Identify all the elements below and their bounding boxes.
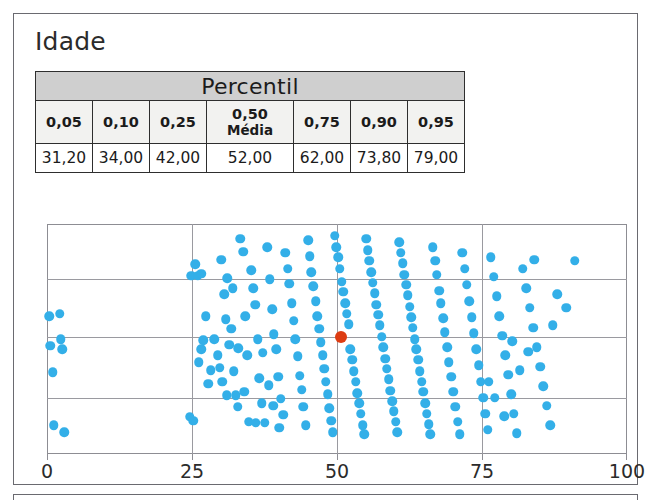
table-column-head-row: 0,05 0,10 0,25 0,50 Média (36, 101, 465, 144)
x-axis-labels: 0255075100 (47, 460, 627, 488)
table-header-span-row: Percentil (36, 72, 465, 101)
scatter-point (269, 330, 279, 340)
scatter-point (415, 366, 425, 376)
gridline-horizontal (47, 398, 627, 399)
scatter-point (503, 370, 513, 380)
scatter-point (424, 419, 434, 429)
scatter-point (321, 377, 331, 387)
scatter-point (528, 323, 538, 333)
scatter-point (257, 399, 267, 409)
scatter-point (222, 391, 232, 401)
scatter-point (406, 312, 416, 322)
scatter-point (342, 309, 352, 319)
scatter-point (293, 352, 303, 362)
scatter-point (318, 350, 328, 360)
scatter-point (227, 324, 237, 334)
scatter-point (264, 380, 274, 390)
scatter-point (453, 417, 463, 427)
scatter-point (46, 341, 56, 351)
scatter-point (428, 242, 438, 252)
scatter-point (434, 286, 444, 296)
col-head-label-4: 0,75 (304, 114, 340, 130)
scatter-point (360, 430, 370, 440)
scatter-point (382, 364, 392, 374)
scatter-point (289, 316, 299, 326)
scatter-point (228, 284, 238, 294)
col-head-1: 0,10 (93, 101, 150, 144)
scatter-point (542, 401, 552, 411)
scatter-point (229, 366, 239, 376)
scatter-point (506, 389, 516, 399)
scatter-point (344, 319, 354, 329)
value-cell-0: 31,20 (36, 144, 93, 173)
scatter-point (471, 345, 481, 355)
scatter-point (191, 260, 201, 270)
scatter-point (239, 387, 249, 397)
scatter-point (216, 255, 226, 265)
scatter-point (234, 343, 244, 353)
scatter-point (206, 365, 216, 375)
value-cell-3: 52,00 (207, 144, 294, 173)
scatter-point (403, 291, 413, 301)
scatter-point (509, 409, 519, 419)
scatter-point (325, 403, 335, 413)
x-axis-tick-label: 0 (41, 460, 53, 482)
scatter-point (57, 345, 67, 355)
scatter-point (432, 270, 442, 280)
scatter-point (462, 280, 472, 290)
scatter-point (251, 418, 261, 428)
scatter-point (489, 272, 499, 282)
scatter-point (194, 357, 204, 367)
scatter-point (512, 429, 522, 439)
scatter-point (398, 258, 408, 268)
scatter-point (561, 303, 571, 313)
scatter-point (405, 302, 415, 312)
scatter-point (328, 427, 338, 437)
scatter-point (354, 399, 364, 409)
median-marker (335, 331, 347, 343)
scatter-point (311, 296, 321, 306)
col-head-sub-3: Média (209, 123, 291, 138)
scatter-point (197, 345, 207, 355)
scatter-point (535, 362, 545, 372)
scatter-point (349, 366, 359, 376)
scatter-point (335, 264, 345, 274)
scatter-point (379, 342, 389, 352)
col-head-label-5: 0,90 (361, 114, 397, 130)
scatter-point (287, 299, 297, 309)
scatter-point (316, 338, 326, 348)
scatter-point (238, 247, 248, 257)
scatter-point (481, 409, 491, 419)
scatter-point (393, 427, 403, 437)
scatter-point (467, 312, 477, 322)
value-cell-5: 73,80 (351, 144, 408, 173)
scatter-point (500, 350, 510, 360)
scatter-point (347, 355, 357, 365)
scatter-point (442, 342, 452, 352)
scatter-point (356, 409, 366, 419)
scatter-point (340, 299, 350, 309)
scatter-point (301, 421, 311, 431)
scatter-point (198, 335, 208, 345)
scatter-point (391, 417, 401, 427)
table-header-percentil: Percentil (36, 72, 465, 101)
scatter-point (492, 292, 502, 302)
percentile-table-wrap: Percentil 0,05 0,10 0,25 0,50 (35, 71, 465, 173)
scatter-point (203, 379, 213, 389)
scatter-point (197, 269, 207, 279)
scatter-point (370, 288, 380, 298)
scatter-point (546, 421, 556, 431)
scatter-point (255, 373, 265, 383)
scatter-point (351, 377, 361, 387)
col-head-label-0: 0,05 (46, 114, 82, 130)
scatter-point (474, 361, 484, 371)
scatter-point (246, 265, 256, 275)
scatter-point (486, 253, 496, 263)
scatter-point (455, 430, 465, 440)
scatter-point (483, 425, 493, 435)
scatter-point (297, 385, 307, 395)
scatter-point (290, 334, 300, 344)
scatter-point (332, 242, 342, 252)
scatter-point (45, 311, 55, 321)
scatter-point (333, 253, 343, 263)
